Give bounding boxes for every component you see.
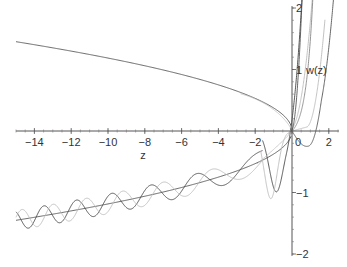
x-tick-label: 0 bbox=[295, 136, 301, 148]
curve-upper-light bbox=[240, 94, 292, 131]
x-axis-label: z bbox=[140, 149, 146, 161]
x-tick-label: −6 bbox=[175, 136, 188, 148]
y-tick-label: 2 bbox=[296, 2, 302, 14]
y-tick-label: −2 bbox=[296, 248, 309, 260]
x-tick-label: −8 bbox=[139, 136, 152, 148]
x-tick-label: −4 bbox=[212, 136, 225, 148]
curves bbox=[16, 0, 334, 228]
x-tick-label: −14 bbox=[25, 136, 44, 148]
y-axis-label: w(z) bbox=[305, 64, 327, 76]
y-tick-label: −1 bbox=[296, 187, 309, 199]
x-tick-label: −10 bbox=[99, 136, 118, 148]
curve-oscillating-dark bbox=[16, 151, 263, 229]
curve-lower-monotone bbox=[16, 136, 291, 220]
curve-lower-light bbox=[257, 131, 292, 164]
x-tick-label: 2 bbox=[326, 136, 332, 148]
curve-dip-light bbox=[261, 0, 313, 199]
x-tick-label: −2 bbox=[249, 136, 262, 148]
x-tick-label: −12 bbox=[62, 136, 81, 148]
chart: −14−12−10−8−6−4−202−2−112zw(z) bbox=[0, 0, 347, 267]
curve-upper-monotone bbox=[16, 42, 291, 126]
y-tick-label: 1 bbox=[296, 64, 302, 76]
